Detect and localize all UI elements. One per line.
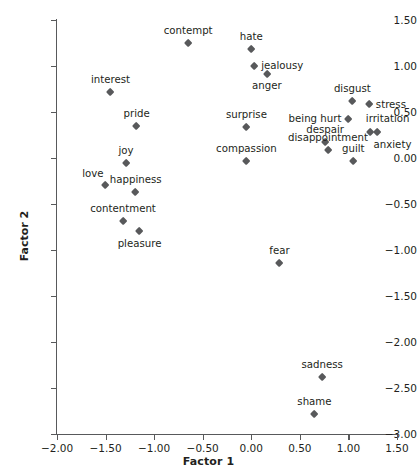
y-tick: [51, 342, 56, 343]
x-tick-label: −0.50: [187, 442, 219, 454]
point-label: shame: [297, 397, 331, 407]
x-tick: [154, 435, 155, 440]
point-label: disgust: [334, 84, 371, 94]
x-tick-label: −1.00: [138, 442, 170, 454]
x-tick: [106, 435, 107, 440]
point-label: sadness: [302, 360, 343, 370]
point-label: contempt: [164, 26, 213, 36]
x-tick-label: 1.50: [385, 442, 408, 454]
y-tick: [51, 20, 56, 21]
point-label: pride: [124, 109, 150, 119]
point-label: being hurt: [289, 114, 342, 124]
point-label: irritation: [366, 114, 410, 124]
point-label: anxiety: [374, 140, 412, 150]
point-label: disappointment: [288, 133, 368, 143]
x-tick-label: 1.00: [337, 442, 360, 454]
point-label: love: [82, 169, 103, 179]
scatter-plot: 1.501.000.500.00−0.50−1.00−1.50−2.00−2.5…: [0, 0, 417, 472]
point-label: pleasure: [118, 239, 162, 249]
x-tick: [251, 435, 252, 440]
point-label: surprise: [226, 110, 267, 120]
y-tick: [51, 296, 56, 297]
x-tick-label: −1.50: [89, 442, 121, 454]
x-tick-label: −2.00: [41, 442, 73, 454]
point-label: stress: [376, 100, 406, 110]
y-tick: [51, 388, 56, 389]
x-tick: [300, 435, 301, 440]
y-tick: [51, 434, 56, 435]
x-tick: [203, 435, 204, 440]
x-tick-label: 0.50: [288, 442, 311, 454]
y-axis-title: Factor 2: [18, 211, 31, 262]
point-label: guilt: [342, 144, 365, 154]
x-tick: [397, 435, 398, 440]
point-label: happiness: [110, 175, 162, 185]
y-tick: [51, 204, 56, 205]
point-label: hate: [240, 32, 263, 42]
point-label: interest: [91, 75, 130, 85]
point-label: joy: [118, 146, 133, 156]
point-label: fear: [269, 246, 289, 256]
y-tick: [51, 112, 56, 113]
x-tick: [348, 435, 349, 440]
x-axis-line: [56, 434, 398, 435]
x-tick-label: 0.00: [240, 442, 263, 454]
y-tick: [51, 250, 56, 251]
point-label: contentment: [90, 204, 156, 214]
x-axis-title: Factor 1: [0, 455, 417, 468]
x-tick: [57, 435, 58, 440]
point-label: anger: [252, 81, 282, 91]
y-tick: [51, 158, 56, 159]
y-tick: [51, 66, 56, 67]
point-label: compassion: [216, 144, 277, 154]
